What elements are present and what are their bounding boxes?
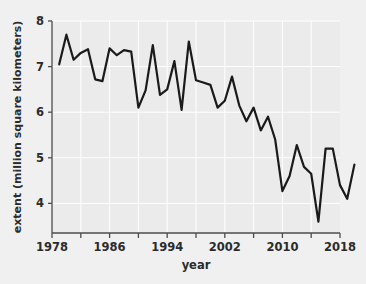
x-axis-title: year xyxy=(182,258,211,272)
y-tick-label: 7 xyxy=(36,60,44,74)
y-axis-title: extent (million square kilometers) xyxy=(11,21,24,233)
x-tick-label: 2018 xyxy=(324,240,356,254)
y-tick-label: 4 xyxy=(36,196,44,210)
x-tick-label: 1994 xyxy=(151,240,183,254)
chart-figure: 45678 197819861994200220102018 year exte… xyxy=(0,0,366,284)
line-chart: 45678 197819861994200220102018 year exte… xyxy=(0,0,366,284)
y-tick-label: 5 xyxy=(36,151,44,165)
x-tick-label: 2010 xyxy=(266,240,298,254)
x-tick-label: 1986 xyxy=(94,240,126,254)
y-tick-label: 8 xyxy=(36,14,44,28)
x-tick-label: 1978 xyxy=(36,240,68,254)
y-tick-label: 6 xyxy=(36,105,44,119)
x-tick-label: 2002 xyxy=(209,240,241,254)
